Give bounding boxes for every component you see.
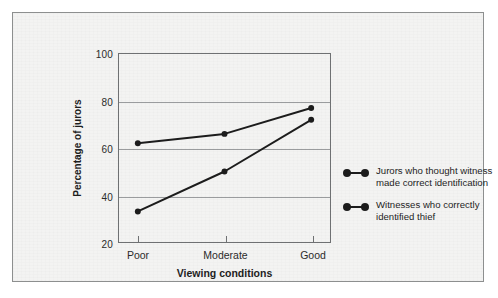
chart-panel: Percentage of jurors 20406080100 PoorMod… xyxy=(12,12,484,282)
x-axis-title: Viewing conditions xyxy=(118,267,331,279)
y-axis-tick-label: 80 xyxy=(101,96,113,107)
legend-label-witnesses: Witnesses who correctly identified thief xyxy=(376,199,493,224)
legend-entry-jurors: Jurors who thought witness made correct … xyxy=(343,165,493,190)
y-axis-tick-label: 60 xyxy=(101,144,113,155)
y-axis-tick-label: 100 xyxy=(96,49,113,60)
y-axis-title-text: Percentage of jurors xyxy=(72,99,83,196)
plot-area: 20406080100 PoorModerateGood xyxy=(118,53,331,243)
data-point xyxy=(135,208,141,214)
legend-marker-icon xyxy=(343,167,369,179)
legend: Jurors who thought witness made correct … xyxy=(343,165,493,233)
data-point xyxy=(308,117,314,123)
y-axis-tick-label: 40 xyxy=(101,191,113,202)
data-point xyxy=(135,140,141,146)
y-axis-tick-label: 20 xyxy=(101,239,113,250)
series-line-0 xyxy=(138,108,311,143)
legend-entry-witnesses: Witnesses who correctly identified thief xyxy=(343,199,493,224)
figure: Percentage of jurors 20406080100 PoorMod… xyxy=(0,0,498,298)
data-point xyxy=(222,169,228,175)
x-axis-tick-label: Good xyxy=(300,249,326,261)
data-point xyxy=(222,131,228,137)
y-axis-title: Percentage of jurors xyxy=(69,53,85,243)
x-axis-tick-label: Moderate xyxy=(203,249,247,261)
legend-marker-icon xyxy=(343,201,369,213)
x-axis-tick-label: Poor xyxy=(127,249,149,261)
data-point xyxy=(308,105,314,111)
legend-label-jurors: Jurors who thought witness made correct … xyxy=(376,165,493,190)
series-lines xyxy=(119,54,330,242)
